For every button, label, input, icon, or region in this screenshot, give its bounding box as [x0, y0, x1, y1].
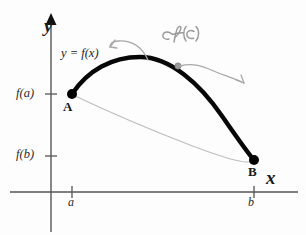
x-tick-label-a: a — [68, 196, 74, 208]
y-tick-label-f-of-a: f(a) — [16, 87, 34, 100]
mvt-figure: y x y = f(x) f(a) f(b) a b A B — [0, 0, 306, 235]
handwritten-annotation-c-fc — [163, 26, 199, 42]
x-axis-label: x — [266, 168, 276, 187]
point-a-marker — [67, 89, 77, 99]
function-curve — [72, 57, 254, 160]
curve-label: y = f(x) — [61, 47, 99, 60]
point-b-label: B — [248, 165, 257, 178]
secant-line-ab — [73, 95, 253, 162]
y-tick-label-f-of-b: f(b) — [16, 148, 34, 161]
y-axis-label: y — [44, 16, 52, 35]
x-tick-label-b: b — [248, 196, 254, 208]
point-a-label: A — [63, 100, 72, 113]
